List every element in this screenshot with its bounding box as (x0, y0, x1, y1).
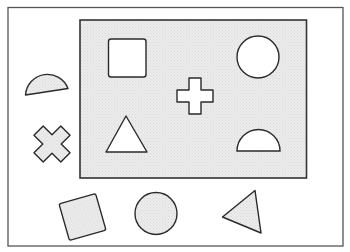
form-board-figure (0, 0, 350, 252)
figure-canvas (0, 0, 350, 252)
loose-circle (135, 193, 177, 235)
circle-slot (237, 36, 279, 78)
square-slot (109, 39, 147, 77)
